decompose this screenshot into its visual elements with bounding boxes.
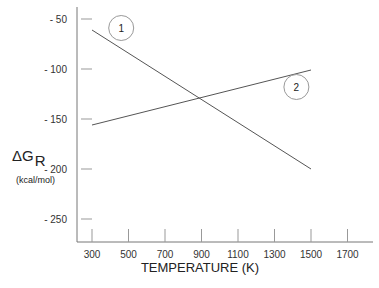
x-tick-label: 1300 [263, 249, 286, 260]
x-tick-label: 1700 [336, 249, 359, 260]
data-series [92, 30, 311, 169]
x-tick-label: 700 [157, 249, 174, 260]
y-ticks: - 50- 100- 150- 200- 250 [44, 14, 92, 225]
y-axis-units: (kcal/mol) [16, 175, 55, 185]
y-tick-label: - 200 [44, 164, 67, 175]
y-axis-label: ΔGR [12, 147, 46, 169]
y-tick-label: - 50 [50, 14, 68, 25]
x-ticks: 3005007009001100130015001700 [84, 229, 359, 260]
series-line-2 [92, 70, 311, 125]
y-tick-label: - 100 [44, 64, 67, 75]
x-tick-label: 500 [120, 249, 137, 260]
x-tick-label: 300 [84, 249, 101, 260]
x-tick-label: 1100 [227, 249, 249, 260]
curve-markers: 12 [109, 16, 309, 100]
x-tick-label: 900 [193, 249, 210, 260]
axes [77, 7, 373, 242]
x-tick-label: 1500 [300, 249, 323, 260]
y-tick-label: - 250 [44, 214, 67, 225]
curve-label-1: 1 [118, 23, 124, 34]
curve-label-2: 2 [294, 82, 300, 93]
x-axis-label: TEMPERATURE (K) [141, 260, 259, 275]
y-tick-label: - 150 [44, 114, 67, 125]
series-line-1 [92, 30, 311, 169]
chart: - 50- 100- 150- 200- 250 300500700900110… [0, 0, 379, 288]
